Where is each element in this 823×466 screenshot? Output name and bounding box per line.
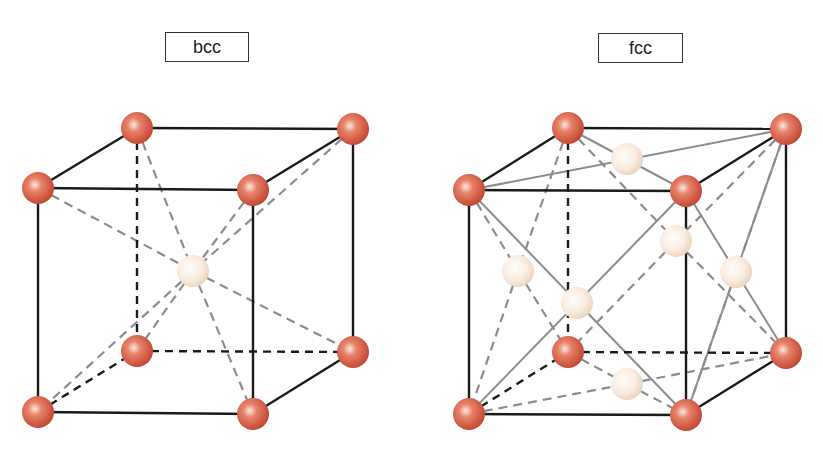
- cube-edge-line: [469, 190, 686, 191]
- hidden-edge-line: [568, 352, 786, 353]
- diagonal-dashed-line: [193, 271, 253, 414]
- center-atom-sphere: [611, 143, 643, 175]
- corner-atom-sphere: [770, 337, 802, 369]
- diagonal-dashed-line: [38, 271, 193, 412]
- corner-atom-sphere: [22, 172, 54, 204]
- diagonal-dashed-line: [38, 188, 193, 271]
- corner-atom-sphere: [121, 112, 153, 144]
- corner-atom-sphere: [22, 396, 54, 428]
- center-atom-sphere: [660, 225, 692, 257]
- diagonal-dashed-line: [193, 129, 353, 271]
- corner-atom-sphere: [453, 398, 485, 430]
- corner-atom-sphere: [237, 398, 269, 430]
- cube-edge-line: [253, 352, 353, 414]
- cube-edge-line: [38, 412, 253, 414]
- fcc-label: fcc: [598, 33, 683, 63]
- cube-edge-line: [469, 414, 686, 415]
- corner-atom-sphere: [121, 335, 153, 367]
- cube-edge-line: [38, 128, 137, 188]
- center-atom-sphere: [720, 256, 752, 288]
- corner-atom-sphere: [453, 174, 485, 206]
- corner-atom-sphere: [670, 175, 702, 207]
- center-atom-sphere: [611, 368, 643, 400]
- bcc-unit-cell: [22, 112, 369, 430]
- corner-atom-sphere: [770, 113, 802, 145]
- cube-edge-line: [38, 188, 253, 190]
- hidden-edge-line: [38, 351, 137, 412]
- crystal-structures-canvas: [0, 0, 823, 466]
- corner-atom-sphere: [670, 399, 702, 431]
- corner-atom-sphere: [337, 113, 369, 145]
- cube-edge-line: [137, 128, 353, 129]
- corner-atom-sphere: [337, 336, 369, 368]
- corner-atom-sphere: [237, 174, 269, 206]
- cube-edge-line: [253, 129, 353, 190]
- diagonal-dashed-line: [469, 271, 518, 414]
- center-atom-sphere: [177, 255, 209, 287]
- center-atom-sphere: [502, 255, 534, 287]
- bcc-label: bcc: [165, 32, 249, 62]
- center-atom-sphere: [561, 287, 593, 319]
- cube-edge-line: [568, 128, 786, 129]
- corner-atom-sphere: [552, 336, 584, 368]
- diagonal-dashed-line: [137, 128, 193, 271]
- hidden-edge-line: [137, 351, 353, 352]
- fcc-unit-cell: [453, 112, 802, 431]
- diagonal-dashed-line: [193, 271, 353, 352]
- corner-atom-sphere: [552, 112, 584, 144]
